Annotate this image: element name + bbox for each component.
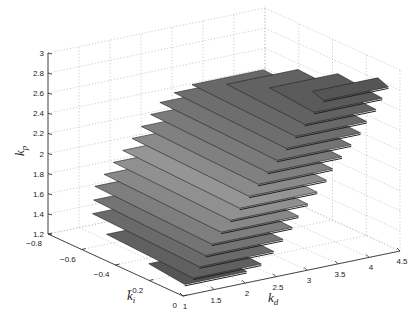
kd-tick-label: 3 [307,276,312,285]
kd-tick-label: 2 [245,289,250,298]
ki-tick-label: 0 [173,301,178,310]
kd-tick-label: 2.5 [272,283,284,292]
kp-tick-label: 2.6 [33,89,45,98]
kp-tick-label: 3 [40,49,45,58]
chart-3d-plot: 1.21.41.61.822.22.42.62.83−0.8−0.6−0.4−0… [0,0,414,326]
kp-tick-label: 1.6 [33,190,45,199]
kd-tick-label: 1.5 [210,296,222,305]
kd-tick-label: 4.5 [396,257,408,266]
ki-tick-label: −0.4 [94,270,110,279]
kp-tick-label: 2 [40,150,45,159]
kp-tick-label: 1.4 [33,210,45,219]
kd-axis-label: kd [268,290,279,307]
kp-tick-label: 2.8 [33,69,45,78]
kp-tick-label: 1.2 [33,230,45,239]
ki-tick-label: −0.8 [26,239,42,248]
kd-tick-label: 4 [369,263,374,272]
kp-tick-label: 2.2 [33,129,45,138]
region-slices [93,70,389,286]
ki-tick-label: −0.6 [60,255,76,264]
kd-tick-label: 1 [183,302,188,311]
kp-axis-label: kp [12,145,29,156]
kp-tick-label: 2.4 [33,109,45,118]
kp-tick-label: 1.8 [33,170,45,179]
kd-tick-label: 3.5 [334,270,346,279]
